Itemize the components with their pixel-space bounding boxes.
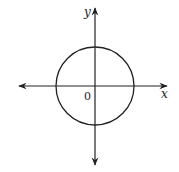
coordinate-diagram: y x 0 <box>0 0 179 172</box>
y-axis-label: y <box>83 5 91 19</box>
x-axis-label: x <box>161 87 168 101</box>
origin-label: 0 <box>84 90 91 103</box>
